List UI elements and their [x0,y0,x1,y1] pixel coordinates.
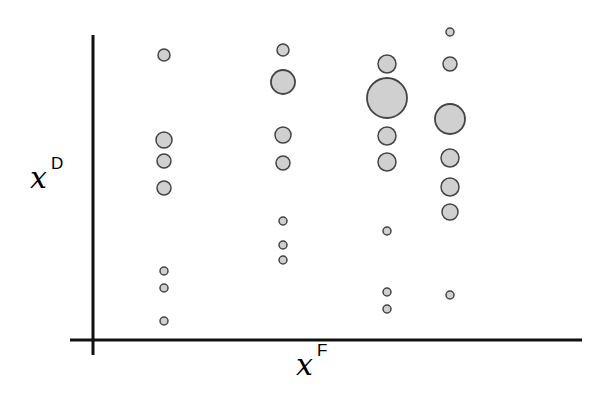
bubble-point [275,127,291,143]
bubble-point [378,55,396,73]
bubble-point [279,217,287,225]
bubble-point [271,70,295,94]
bubble-point [446,28,454,36]
bubble-point [276,156,290,170]
bubble-point [277,44,289,56]
bubble-point [435,104,465,134]
y-axis-label: xD [30,160,63,195]
bubble-point [383,288,391,296]
y-axis-label-superscript: D [51,154,63,173]
bubble-point [446,291,454,299]
bubble-point [279,256,287,264]
bubble-point [383,227,391,235]
x-axis-label-base: x [296,347,313,382]
x-axis-label-superscript: F [317,341,327,360]
bubble-point [158,49,170,61]
x-axis-label: xF [296,347,327,382]
bubble-point [367,78,407,118]
bubble-point [279,241,287,249]
bubble-point [378,153,396,171]
bubble-point [383,305,391,313]
bubble-point [156,132,172,148]
bubble-point [442,204,458,220]
bubble-point [157,154,171,168]
bubble-point [160,284,168,292]
bubble-point [443,57,457,71]
bubble-point [441,149,459,167]
bubble-point [160,317,168,325]
bubble-point [378,127,396,145]
bubble-plot [0,0,610,395]
y-axis-label-base: x [30,160,47,195]
bubble-point [160,267,168,275]
bubble-point [441,178,459,196]
bubble-group [156,28,465,325]
bubble-point [157,181,171,195]
